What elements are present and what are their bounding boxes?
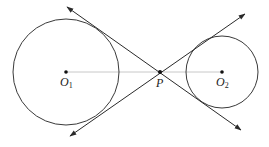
label-o1: O1 [60,75,73,90]
tangent-circles-diagram: O1 O2 P [0,0,269,147]
label-o2: O2 [216,75,229,90]
center-point-o1 [64,70,68,74]
center-point-o2 [220,70,224,74]
diagram-canvas: O1 O2 P [0,0,269,147]
label-p: P [155,76,164,90]
intersection-point-p [158,70,162,74]
tangent-line-1 [67,7,241,130]
